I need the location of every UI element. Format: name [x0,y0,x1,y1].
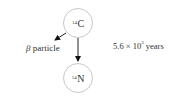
half-life-mantissa: 5.6 [113,41,124,51]
half-life-label: 5.6 × 103 years [113,41,164,51]
nitrogen-14-node: 14N [63,63,93,93]
beta-particle-label: β particle [26,43,60,53]
carbon-14-node: 14C [63,8,93,38]
half-life-exponent: 3 [141,40,144,45]
nitrogen-mass-number: 14 [72,75,77,80]
nitrogen-symbol: N [77,73,84,84]
carbon-mass-number: 14 [72,20,77,25]
carbon-symbol: C [77,18,84,29]
times-sign: × [126,41,131,51]
half-life-unit: years [146,41,164,51]
half-life-base: 10 [133,41,142,51]
beta-emission-arrow [55,33,66,40]
beta-symbol: β [26,43,30,53]
beta-text: particle [33,43,60,53]
